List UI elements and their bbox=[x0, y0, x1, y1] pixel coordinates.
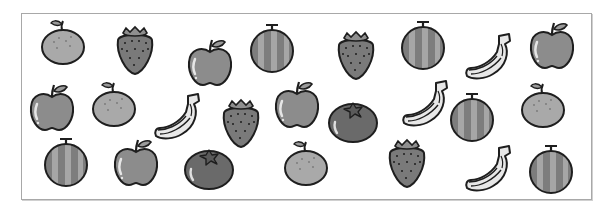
strawberry-icon bbox=[220, 97, 262, 149]
orange-icon bbox=[91, 80, 137, 128]
melon-icon bbox=[249, 22, 295, 74]
strawberry-icon bbox=[335, 29, 377, 81]
strawberry-icon bbox=[114, 24, 156, 76]
apple-icon bbox=[186, 37, 234, 89]
tomato-icon bbox=[183, 145, 235, 191]
banana-icon bbox=[463, 32, 517, 82]
strawberry-icon bbox=[386, 137, 428, 189]
melon-icon bbox=[528, 143, 574, 195]
orange-icon bbox=[40, 18, 86, 66]
melon-icon bbox=[400, 19, 446, 71]
apple-icon bbox=[273, 79, 321, 131]
banana-icon bbox=[463, 144, 517, 194]
melon-icon bbox=[449, 91, 495, 143]
orange-icon bbox=[283, 139, 329, 187]
tomato-icon bbox=[327, 98, 379, 144]
apple-icon bbox=[28, 82, 76, 134]
banana-icon bbox=[400, 79, 454, 129]
banana-icon bbox=[152, 92, 206, 142]
orange-icon bbox=[520, 81, 566, 129]
apple-icon bbox=[112, 137, 160, 189]
melon-icon bbox=[43, 136, 89, 188]
apple-icon bbox=[528, 20, 576, 72]
